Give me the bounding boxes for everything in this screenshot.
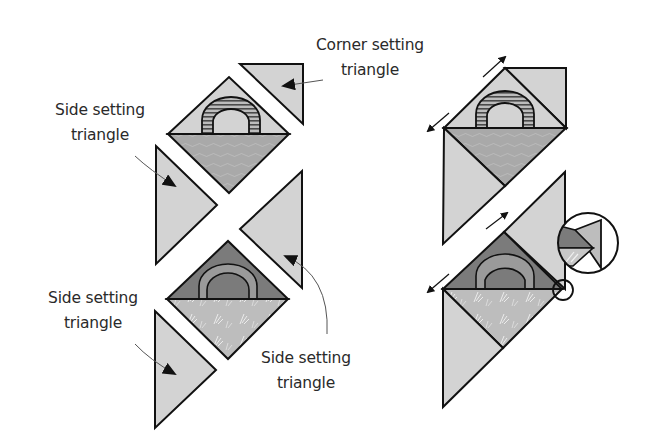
seam-arrow-up-2 [486, 213, 507, 229]
label-line: Side setting [244, 346, 368, 371]
label-line: triangle [244, 371, 368, 396]
sewn-rows [428, 57, 620, 407]
label-line: triangle [31, 311, 155, 336]
quilt-assembly-diagram: Corner setting triangle Side setting tri… [0, 0, 653, 444]
label-line: Corner setting [296, 33, 444, 58]
label-line: Side setting [31, 286, 155, 311]
label-side-setting-triangle-lower-left: Side setting triangle [31, 286, 155, 336]
label-side-setting-triangle-upper: Side setting triangle [38, 98, 162, 148]
label-line: triangle [296, 58, 444, 83]
label-corner-setting-triangle: Corner setting triangle [296, 33, 444, 83]
label-side-setting-triangle-lower-right: Side setting triangle [244, 346, 368, 396]
label-line: triangle [38, 123, 162, 148]
label-line: Side setting [38, 98, 162, 123]
